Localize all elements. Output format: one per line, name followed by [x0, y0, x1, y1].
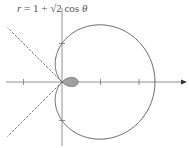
polar-plot: [0, 0, 189, 148]
inner-loop: [62, 77, 78, 86]
x-axis-arrow-icon: [181, 80, 187, 85]
axes: [6, 8, 187, 146]
